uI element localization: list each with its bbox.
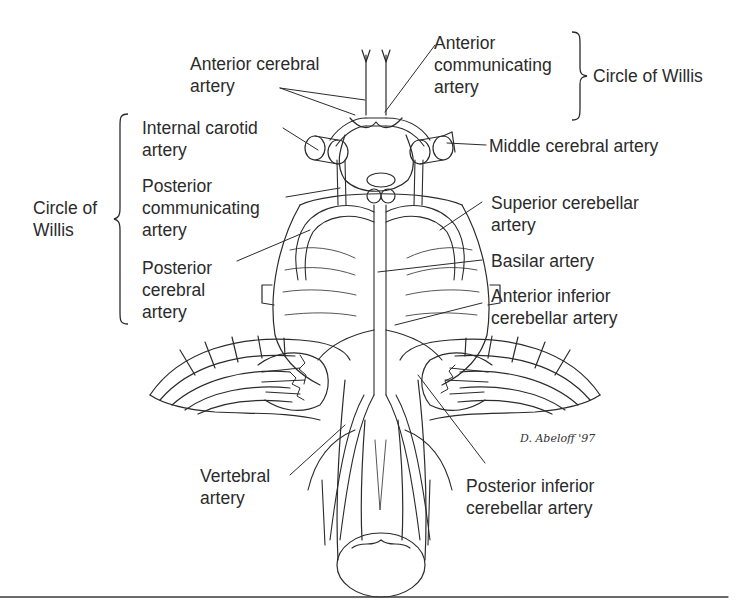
label-internal-carotid-artery: Internal carotid artery — [142, 117, 258, 161]
label-anterior-cerebral-artery: Anterior cerebral artery — [190, 53, 319, 97]
label-superior-cerebellar-artery: Superior cerebellar artery — [491, 192, 639, 236]
internal-carotid-stumps — [305, 132, 455, 164]
left-cerebellum — [150, 336, 350, 420]
left-brace — [112, 112, 134, 326]
right-brace — [568, 30, 590, 122]
label-basilar-artery: Basilar artery — [491, 250, 594, 272]
label-posterior-cerebral-artery: Posterior cerebral artery — [142, 257, 212, 323]
label-anterior-communicating-artery: Anterior communicating artery — [434, 32, 552, 98]
label-posterior-communicating-artery: Posterior communicating artery — [142, 175, 260, 241]
circle-of-willis-group-label-right: Circle of Willis — [593, 65, 703, 87]
artist-signature: D. Abeloff '97 — [520, 432, 595, 445]
label-middle-cerebral-artery: Middle cerebral artery — [489, 135, 658, 157]
label-posterior-inferior-cerebellar-artery: Posterior inferior cerebellar artery — [466, 475, 594, 519]
circle-of-willis-group-label-left: Circle of Willis — [33, 197, 97, 241]
arteries — [296, 118, 464, 545]
label-anterior-inferior-cerebellar-artery: Anterior inferior cerebellar artery — [491, 285, 617, 329]
label-vertebral-artery: Vertebral artery — [200, 465, 270, 509]
pons — [262, 194, 500, 385]
diagram-canvas: Circle of Willis Circle of Willis Anteri… — [0, 0, 747, 611]
